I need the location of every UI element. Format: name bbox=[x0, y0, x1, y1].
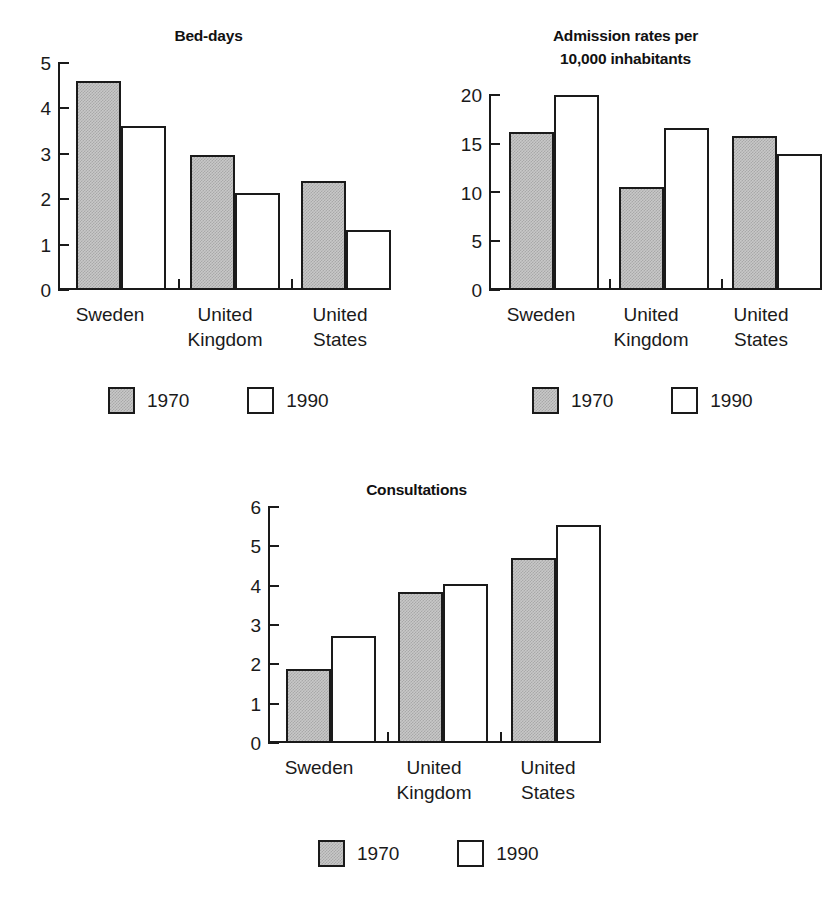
legend-swatch-1970-icon bbox=[108, 387, 135, 414]
plot-area-consultations: 0123456 bbox=[268, 507, 596, 743]
bar-sweden-1990 bbox=[331, 636, 376, 743]
y-axis-tick-label: 1 bbox=[40, 235, 51, 254]
chart-panel-bed-days: Bed-days 012345 Sweden United Kingdom Un… bbox=[0, 24, 417, 444]
legend-swatch-1970-icon bbox=[318, 840, 345, 867]
y-axis-tick-label: 0 bbox=[250, 734, 261, 753]
chart-title-admission-rates-line2: 10,000 inhabitants bbox=[417, 47, 834, 70]
bar-united-states-1970 bbox=[511, 558, 556, 743]
y-axis-tick bbox=[489, 94, 500, 96]
bar-united-states-1990 bbox=[346, 230, 391, 290]
x-axis-tick bbox=[609, 279, 611, 290]
y-axis-tick-label: 0 bbox=[40, 281, 51, 300]
x-axis-tick bbox=[721, 279, 723, 290]
y-axis-tick bbox=[58, 198, 69, 200]
scan-edge-artifact bbox=[0, 0, 834, 7]
y-axis-tick-label: 10 bbox=[461, 183, 482, 202]
bar-united-kingdom-1990 bbox=[235, 193, 280, 290]
y-axis-tick bbox=[489, 191, 500, 193]
legend-item-1970[interactable]: 1970 bbox=[532, 387, 613, 414]
y-axis-tick-label: 3 bbox=[250, 616, 261, 635]
y-axis-tick bbox=[489, 240, 500, 242]
y-axis-tick-label: 1 bbox=[250, 694, 261, 713]
bar-united-states-1970 bbox=[301, 181, 346, 290]
chart-panel-consultations: Consultations 0123456 Sweden United King… bbox=[208, 478, 625, 898]
category-label-united-states: United States bbox=[493, 755, 603, 805]
y-axis-tick-label: 4 bbox=[40, 99, 51, 118]
category-label-sweden: Sweden bbox=[486, 302, 596, 327]
category-label-united-kingdom: United Kingdom bbox=[596, 302, 706, 352]
bar-united-kingdom-1970 bbox=[398, 592, 443, 743]
y-axis-tick bbox=[58, 153, 69, 155]
y-axis-tick bbox=[58, 62, 69, 64]
legend-item-1970[interactable]: 1970 bbox=[108, 387, 189, 414]
chart-title-bed-days: Bed-days bbox=[0, 24, 417, 47]
y-axis-tick bbox=[268, 663, 279, 665]
legend-item-1970[interactable]: 1970 bbox=[318, 840, 399, 867]
y-axis-tick-label: 0 bbox=[471, 281, 482, 300]
legend-swatch-1990-icon bbox=[671, 387, 698, 414]
y-axis-tick bbox=[58, 244, 69, 246]
bar-united-kingdom-1970 bbox=[619, 187, 664, 290]
category-label-sweden: Sweden bbox=[264, 755, 374, 780]
legend-label-1970: 1970 bbox=[357, 844, 399, 863]
y-axis-tick bbox=[268, 545, 279, 547]
y-axis-tick bbox=[489, 143, 500, 145]
y-axis-tick-label: 15 bbox=[461, 134, 482, 153]
y-axis-tick-label: 2 bbox=[250, 655, 261, 674]
plot-area-admission-rates: 05101520 bbox=[489, 95, 805, 290]
legend-label-1970: 1970 bbox=[571, 391, 613, 410]
y-axis-tick-label: 5 bbox=[40, 54, 51, 73]
legend-label-1990: 1990 bbox=[496, 844, 538, 863]
y-axis-tick-label: 3 bbox=[40, 144, 51, 163]
x-axis-tick bbox=[291, 279, 293, 290]
legend-label-1970: 1970 bbox=[147, 391, 189, 410]
chart-panel-admission-rates: Admission rates per 10,000 inhabitants 0… bbox=[417, 24, 834, 444]
legend-swatch-1990-icon bbox=[247, 387, 274, 414]
y-axis-tick-label: 4 bbox=[250, 576, 261, 595]
y-axis-tick bbox=[268, 703, 279, 705]
y-axis bbox=[58, 63, 60, 290]
x-axis-tick bbox=[500, 732, 502, 743]
bar-sweden-1970 bbox=[76, 81, 121, 290]
plot-area-bed-days: 012345 bbox=[58, 63, 388, 290]
bar-united-kingdom-1990 bbox=[664, 128, 709, 290]
legend-label-1990: 1990 bbox=[286, 391, 328, 410]
x-axis-tick bbox=[178, 279, 180, 290]
legend-item-1990[interactable]: 1990 bbox=[671, 387, 752, 414]
category-label-united-states: United States bbox=[706, 302, 816, 352]
y-axis-tick-label: 20 bbox=[461, 86, 482, 105]
bar-united-states-1990 bbox=[777, 154, 822, 291]
y-axis-tick-label: 5 bbox=[471, 232, 482, 251]
category-label-sweden: Sweden bbox=[55, 302, 165, 327]
y-axis-tick bbox=[58, 107, 69, 109]
x-axis-tick bbox=[387, 732, 389, 743]
category-label-united-kingdom: United Kingdom bbox=[379, 755, 489, 805]
legend-label-1990: 1990 bbox=[710, 391, 752, 410]
y-axis-tick bbox=[268, 624, 279, 626]
bar-sweden-1970 bbox=[286, 669, 331, 743]
bar-united-kingdom-1990 bbox=[443, 584, 488, 743]
y-axis-tick bbox=[58, 289, 69, 291]
y-axis-tick bbox=[268, 506, 279, 508]
chart-title-admission-rates-line1: Admission rates per bbox=[417, 24, 834, 47]
legend-admission-rates: 1970 1990 bbox=[532, 387, 753, 414]
legend-item-1990[interactable]: 1990 bbox=[457, 840, 538, 867]
bar-united-states-1970 bbox=[732, 136, 777, 290]
bar-sweden-1970 bbox=[509, 132, 554, 290]
legend-swatch-1990-icon bbox=[457, 840, 484, 867]
y-axis-tick-label: 6 bbox=[250, 498, 261, 517]
y-axis-tick bbox=[268, 742, 279, 744]
category-label-united-states: United States bbox=[285, 302, 395, 352]
bar-united-kingdom-1970 bbox=[190, 155, 235, 290]
y-axis-tick bbox=[489, 289, 500, 291]
legend-consultations: 1970 1990 bbox=[318, 840, 539, 867]
bar-united-states-1990 bbox=[556, 525, 601, 743]
y-axis-tick bbox=[268, 585, 279, 587]
legend-swatch-1970-icon bbox=[532, 387, 559, 414]
y-axis-tick-label: 2 bbox=[40, 190, 51, 209]
bar-sweden-1990 bbox=[121, 126, 166, 290]
y-axis-tick-label: 5 bbox=[250, 537, 261, 556]
category-label-united-kingdom: United Kingdom bbox=[170, 302, 280, 352]
legend-bed-days: 1970 1990 bbox=[108, 387, 329, 414]
legend-item-1990[interactable]: 1990 bbox=[247, 387, 328, 414]
